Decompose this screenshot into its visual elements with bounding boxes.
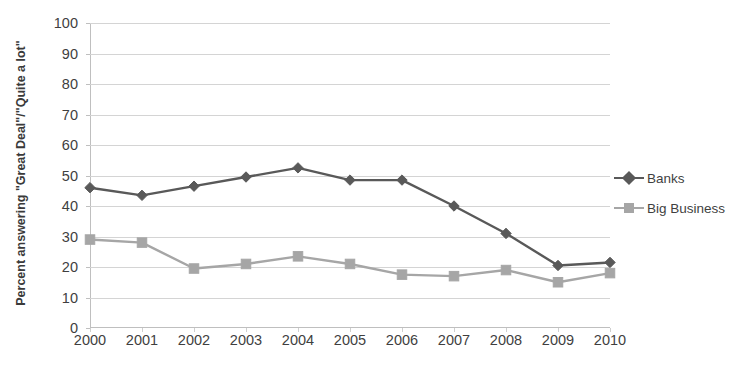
data-point-marker	[449, 201, 459, 211]
x-axis-tick-labels: 2000200120022003200420052006200720082009…	[90, 332, 610, 358]
data-point-marker	[605, 268, 615, 278]
data-point-marker	[345, 259, 355, 269]
y-axis-tick-label: 80	[38, 76, 78, 92]
legend-item-banks[interactable]: Banks	[614, 163, 749, 193]
y-axis-tick-label: 40	[38, 198, 78, 214]
series-plot	[90, 23, 610, 328]
x-axis-tick-label: 2007	[424, 332, 484, 348]
x-axis-tick-label: 2001	[112, 332, 172, 348]
data-point-marker	[605, 257, 615, 267]
data-point-marker	[293, 252, 303, 262]
legend-key	[614, 170, 644, 186]
y-axis-tick-label: 60	[38, 137, 78, 153]
legend-label: Big Business	[644, 201, 725, 216]
x-axis-tick-label: 2003	[216, 332, 276, 348]
legend-square-marker-icon	[624, 203, 634, 213]
data-point-marker	[85, 235, 95, 245]
x-axis-tick-label: 2002	[164, 332, 224, 348]
data-point-marker	[501, 265, 511, 275]
x-axis-tick-label: 2005	[320, 332, 380, 348]
x-axis-tick-label: 2010	[580, 332, 640, 348]
y-axis-tick-label: 100	[38, 15, 78, 31]
line-chart: Percent answering "Great Deal"/"Quite a …	[0, 0, 749, 375]
y-axis-tick-labels: 1009080706050403020100	[40, 0, 84, 375]
legend-key	[614, 200, 644, 216]
legend-item-big-business[interactable]: Big Business	[614, 193, 749, 223]
x-axis-tick-label: 2006	[372, 332, 432, 348]
data-point-marker	[189, 264, 199, 274]
plot-area	[90, 23, 610, 328]
y-axis-tick-label: 70	[38, 107, 78, 123]
data-point-marker	[293, 163, 303, 173]
data-point-marker	[241, 259, 251, 269]
y-axis-tick-label: 20	[38, 259, 78, 275]
x-axis-tick-label: 2008	[476, 332, 536, 348]
data-point-marker	[241, 172, 251, 182]
legend-diamond-marker-icon	[622, 171, 636, 185]
y-axis-title: Percent answering "Great Deal"/"Quite a …	[8, 18, 34, 328]
y-axis-title-text: Percent answering "Great Deal"/"Quite a …	[8, 18, 34, 328]
data-point-marker	[189, 181, 199, 191]
y-axis-tick-label: 90	[38, 46, 78, 62]
x-axis-tick-label: 2009	[528, 332, 588, 348]
x-axis-tick-label: 2004	[268, 332, 328, 348]
data-point-marker	[345, 175, 355, 185]
y-axis-tick-label: 30	[38, 229, 78, 245]
chart-legend: BanksBig Business	[614, 163, 749, 223]
data-point-marker	[137, 238, 147, 248]
series-big-business	[85, 235, 615, 287]
data-point-marker	[397, 270, 407, 280]
data-point-marker	[137, 190, 147, 200]
y-axis-tick-label: 10	[38, 290, 78, 306]
x-axis-tick-label: 2000	[60, 332, 120, 348]
data-point-marker	[553, 278, 563, 288]
legend-label: Banks	[644, 171, 685, 186]
data-point-marker	[85, 183, 95, 193]
y-axis-tick-label: 50	[38, 168, 78, 184]
data-point-marker	[449, 271, 459, 281]
data-point-marker	[397, 175, 407, 185]
